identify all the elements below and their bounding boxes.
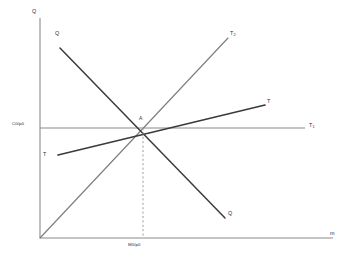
y-axis-tick-label-c0p0: C0/p0: [12, 122, 24, 126]
t-curve-label-left: T: [43, 152, 46, 157]
t2-curve-label: T2: [230, 31, 236, 37]
t-curve-label-right: T: [267, 99, 270, 104]
t2-curve-label-subscript: 2: [233, 32, 235, 37]
t2-line: [40, 38, 228, 238]
qq-curve-label-top: Q: [55, 31, 59, 36]
t1-curve-label-subscript: 1: [312, 124, 314, 129]
diagram-svg: [0, 0, 358, 262]
qq-curve-label-bottom: Q: [228, 211, 232, 216]
x-axis-label: m: [330, 231, 335, 236]
t1-curve-label: T1: [309, 123, 315, 129]
t-line: [58, 105, 265, 155]
y-axis-label: Q: [32, 9, 36, 14]
x-axis-tick-label-m0p0: M0/p0: [128, 243, 140, 247]
intersection-point-label-a: A: [139, 116, 142, 121]
figure-canvas: Q m C0/p0 M0/p0 A Q Q T2 T1 T T: [0, 0, 358, 262]
